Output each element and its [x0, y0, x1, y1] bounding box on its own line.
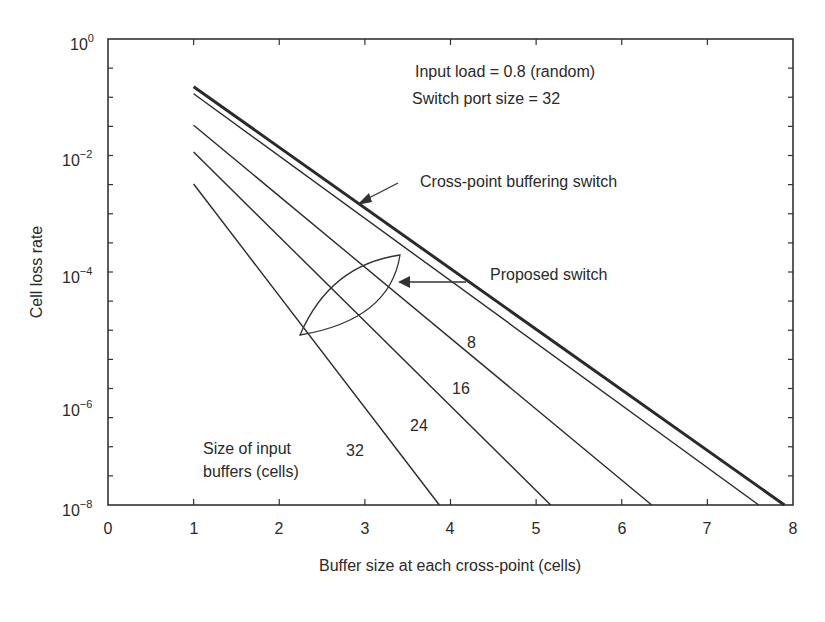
y-tick-1e-6: 10−6: [62, 398, 92, 419]
x-tick-8: 8: [789, 520, 798, 537]
x-tick-2: 2: [275, 520, 284, 537]
x-tick-5: 5: [532, 520, 541, 537]
y-axis-title: Cell loss rate: [28, 226, 45, 319]
annotation-input-buffers-2: buffers (cells): [203, 463, 299, 480]
annotation-input-load: Input load = 0.8 (random): [415, 63, 595, 80]
x-tick-4: 4: [446, 520, 455, 537]
plot-frame: [108, 39, 793, 505]
curve-label-24: 24: [410, 417, 428, 434]
annotation-input-buffers-1: Size of input: [203, 440, 292, 457]
x-tick-labels: 0 1 2 3 4 5 6 7 8: [104, 520, 798, 537]
annotation-crosspoint: Cross-point buffering switch: [420, 173, 617, 190]
y-tick-1e0: 100: [70, 32, 94, 53]
x-tick-0: 0: [104, 520, 113, 537]
proposed-arrow: [398, 276, 466, 288]
x-tick-3: 3: [361, 520, 370, 537]
curve-label-16: 16: [452, 380, 470, 397]
crosspoint-arrow: [357, 183, 398, 205]
y-tick-1e-2: 10−2: [62, 148, 92, 169]
y-tick-1e-8: 10−8: [62, 498, 92, 519]
arrowhead-icon: [398, 276, 410, 288]
y-tick-1e-4: 10−4: [62, 265, 92, 286]
annotation-proposed: Proposed switch: [490, 266, 607, 283]
chart: 0 1 2 3 4 5 6 7 8 100 10−2 10−4 10−6 10−…: [0, 0, 825, 622]
x-axis-title: Buffer size at each cross-point (cells): [319, 557, 581, 574]
curve-label-32: 32: [346, 442, 364, 459]
x-tick-6: 6: [618, 520, 627, 537]
proposed-switch-ellipse: [300, 255, 400, 335]
annotation-port-size: Switch port size = 32: [412, 90, 560, 107]
curve-label-8: 8: [467, 334, 476, 351]
x-tick-7: 7: [703, 520, 712, 537]
x-tick-1: 1: [190, 520, 199, 537]
axis-ticks: [108, 39, 793, 505]
y-tick-labels: 100 10−2 10−4 10−6 10−8: [62, 32, 94, 519]
arrowhead-icon: [357, 193, 372, 205]
